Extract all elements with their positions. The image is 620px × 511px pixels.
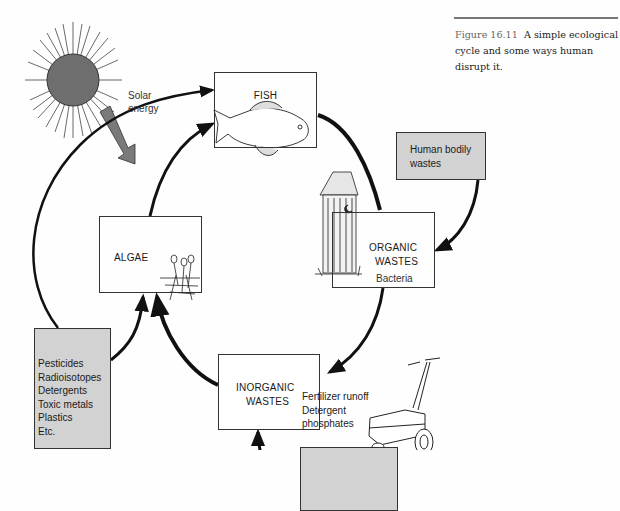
input-human-bodily-wastes: Human bodily wastes	[396, 132, 486, 180]
solar-label-line2: energy	[128, 103, 159, 116]
node-fish-label: FISH	[215, 89, 316, 102]
node-algae-label: ALGAE	[114, 251, 148, 264]
arrow-inorganic-to-algae	[157, 297, 218, 385]
pollutant-item: Pesticides	[38, 357, 101, 371]
bacteria-label: Bacteria	[376, 273, 413, 286]
input-pollutants: Pesticides Radioisotopes Detergents Toxi…	[34, 328, 111, 449]
solar-energy-label: Solar energy	[128, 90, 159, 115]
node-organic-label-line2: WASTES	[375, 255, 418, 268]
fertilizer-item: phosphates	[302, 417, 398, 431]
arrow-organic-to-inorganic	[330, 288, 383, 372]
caption-rule	[454, 17, 618, 19]
node-algae: ALGAE	[99, 216, 202, 293]
node-inorganic-label-line2: WASTES	[246, 395, 289, 408]
node-fish: FISH	[214, 72, 317, 148]
arrow-algae-to-fish	[150, 124, 212, 216]
pollutant-item: Plastics	[38, 411, 101, 425]
input-fertilizer	[300, 447, 398, 511]
node-inorganic-label-line1: INORGANIC	[236, 381, 294, 394]
arrow-fertilizer-to-inorganic	[258, 432, 302, 450]
fertilizer-list-text: Fertilizer runoff Detergent phosphates	[302, 390, 398, 431]
figure-caption: Figure 16.11 A simple ecological cycle a…	[455, 27, 620, 75]
node-organic-label-line1: ORGANIC	[369, 241, 417, 254]
fertilizer-item: Fertilizer runoff	[302, 390, 398, 404]
pollutants-list: Pesticides Radioisotopes Detergents Toxi…	[38, 357, 101, 438]
pollutant-item: Detergents	[38, 384, 101, 398]
human-bodily-line1: Human bodily	[410, 143, 471, 157]
pollutant-item: Etc.	[38, 425, 101, 439]
figure-number: Figure 16.11	[455, 29, 518, 40]
fertilizer-item: Detergent	[302, 404, 398, 418]
human-bodily-line2: wastes	[410, 157, 441, 171]
pollutant-item: Radioisotopes	[38, 371, 101, 385]
arrow-human-to-organic	[437, 180, 478, 250]
pollutant-item: Toxic metals	[38, 398, 101, 412]
solar-label-line1: Solar	[128, 90, 159, 103]
arrow-pollutants-to-algae	[111, 297, 143, 360]
